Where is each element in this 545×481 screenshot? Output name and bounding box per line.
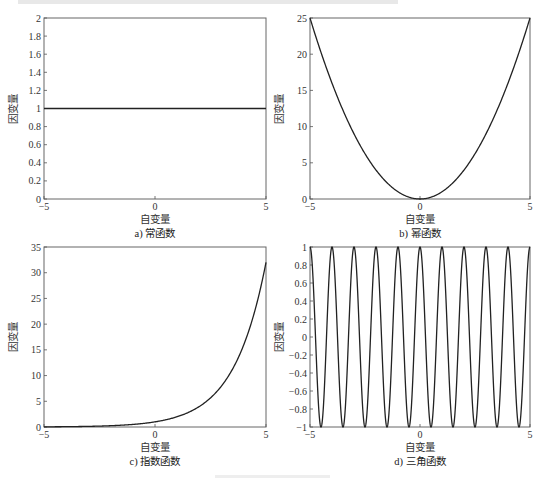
figure-four-function-plots: 00.20.40.60.811.21.41.61.82−505自变量a) 常函数… xyxy=(0,0,545,481)
y-tick-label: 0.2 xyxy=(29,175,42,186)
y-axis-label: 因变量 xyxy=(273,93,285,124)
x-tick-label: 5 xyxy=(264,429,269,440)
series-line-b xyxy=(310,18,530,199)
faint-figure-caption xyxy=(215,475,330,478)
y-axis-label: 因变量 xyxy=(273,321,285,352)
panel-b: 0510152025−505自变量b) 幂函数因变量 xyxy=(273,13,533,241)
y-tick-label: 0.6 xyxy=(295,278,308,289)
x-axis-label: 自变量 xyxy=(140,213,171,225)
x-tick-label: 0 xyxy=(418,429,423,440)
y-tick-label: 0 xyxy=(302,332,307,343)
y-tick-label: 0.6 xyxy=(29,139,42,150)
y-tick-label: 0.2 xyxy=(295,314,308,325)
y-axis-label: 因变量 xyxy=(7,93,19,124)
panel-caption: c) 指数函数 xyxy=(130,455,182,468)
y-tick-label: 25 xyxy=(31,293,41,304)
x-tick-label: 5 xyxy=(528,201,533,212)
y-tick-label: 1.4 xyxy=(29,67,42,78)
x-tick-label: 5 xyxy=(528,429,533,440)
y-tick-label: 1 xyxy=(36,103,41,114)
y-tick-label: 15 xyxy=(31,344,41,355)
cropped-text-line-top xyxy=(18,0,398,4)
y-tick-label: −0.8 xyxy=(289,404,307,415)
y-tick-label: 35 xyxy=(31,242,41,253)
y-tick-label: 0.4 xyxy=(29,157,42,168)
x-axis-label: 自变量 xyxy=(405,213,436,225)
y-tick-label: 0.8 xyxy=(29,121,42,132)
panel-d: −1−0.8−0.6−0.4−0.200.20.40.60.81−505自变量d… xyxy=(273,242,533,469)
x-tick-label: −5 xyxy=(305,201,316,212)
y-tick-label: 20 xyxy=(297,49,307,60)
x-tick-label: −5 xyxy=(39,201,50,212)
panel-a: 00.20.40.60.811.21.41.61.82−505自变量a) 常函数… xyxy=(7,13,269,241)
series-line-c xyxy=(44,262,266,426)
y-tick-label: 2 xyxy=(36,13,41,24)
y-tick-label: 0.8 xyxy=(295,260,308,271)
y-tick-label: 1 xyxy=(302,242,307,253)
y-tick-label: −0.2 xyxy=(289,350,307,361)
y-tick-label: 10 xyxy=(31,370,41,381)
y-tick-label: 10 xyxy=(297,121,307,132)
y-tick-label: 1.6 xyxy=(29,49,42,60)
x-tick-label: 0 xyxy=(153,201,158,212)
y-tick-label: −0.4 xyxy=(289,368,307,379)
plot-frame xyxy=(44,247,266,427)
panel-c: 05101520253035−505自变量c) 指数函数因变量 xyxy=(7,242,269,469)
y-tick-label: 25 xyxy=(297,13,307,24)
y-tick-label: 5 xyxy=(36,396,41,407)
x-axis-label: 自变量 xyxy=(405,441,436,453)
y-tick-label: 15 xyxy=(297,85,307,96)
y-tick-label: 0.4 xyxy=(295,296,308,307)
x-tick-label: 0 xyxy=(153,429,158,440)
y-tick-label: −0.6 xyxy=(289,386,307,397)
x-tick-label: −5 xyxy=(39,429,50,440)
y-tick-label: 5 xyxy=(302,157,307,168)
y-tick-label: 30 xyxy=(31,267,41,278)
x-axis-label: 自变量 xyxy=(140,441,171,453)
series-line-d xyxy=(310,247,530,427)
x-tick-label: 5 xyxy=(264,201,269,212)
x-tick-label: 0 xyxy=(418,201,423,212)
y-tick-label: 1.8 xyxy=(29,31,42,42)
y-axis-label: 因变量 xyxy=(7,321,19,352)
panel-caption: b) 幂函数 xyxy=(399,227,441,240)
y-tick-label: 20 xyxy=(31,319,41,330)
x-tick-label: −5 xyxy=(305,429,316,440)
plot-frame xyxy=(310,18,530,199)
panel-caption: d) 三角函数 xyxy=(394,455,446,468)
plot-frame xyxy=(310,247,530,427)
y-tick-label: 1.2 xyxy=(29,85,42,96)
panel-caption: a) 常函数 xyxy=(135,227,177,240)
